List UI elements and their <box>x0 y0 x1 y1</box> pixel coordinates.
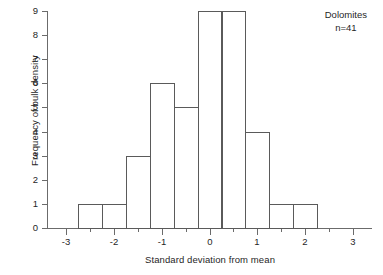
x-axis-title: Standard deviation from mean <box>45 254 375 265</box>
chart-annotation: Dolomites n=41 <box>325 8 367 34</box>
histogram-bar <box>174 107 199 229</box>
annotation-line-count: n=41 <box>325 21 367 34</box>
histogram-bar <box>293 204 318 229</box>
histogram-bar <box>198 11 223 229</box>
histogram-bar <box>245 132 270 229</box>
histogram-figure: Frequency of bulk density 0123456789 -3-… <box>0 0 383 275</box>
histogram-bar <box>221 11 246 229</box>
histogram-bars <box>0 0 383 275</box>
histogram-bar <box>78 204 103 229</box>
histogram-bar <box>102 204 127 229</box>
histogram-bar <box>126 156 151 229</box>
histogram-bar <box>150 83 175 229</box>
annotation-line-region: Dolomites <box>325 8 367 21</box>
histogram-bar <box>269 204 294 229</box>
